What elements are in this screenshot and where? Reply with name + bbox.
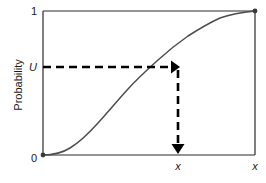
vertical-guide-arrow <box>172 70 185 154</box>
horizontal-guide-arrow <box>43 61 180 74</box>
chart-canvas: 1 0 U x x Probability <box>0 0 266 183</box>
plot-frame <box>43 11 255 155</box>
vertical-guide-arrowhead <box>172 144 185 154</box>
u-level-label: U <box>29 61 37 73</box>
cdf-curve <box>43 11 255 155</box>
y-tick-label-top: 1 <box>31 5 37 17</box>
cdf-curve-group <box>43 11 255 155</box>
y-tick-label-bottom: 0 <box>31 152 37 164</box>
curve-end-marker <box>253 9 258 14</box>
x-sample-label: x <box>174 160 181 172</box>
x-axis-name-label: x <box>251 160 258 172</box>
endpoint-markers <box>41 9 258 158</box>
cdf-inverse-transform-figure: 1 0 U x x Probability <box>0 0 266 183</box>
curve-start-marker <box>41 153 46 158</box>
y-axis-title: Probability <box>12 59 24 111</box>
